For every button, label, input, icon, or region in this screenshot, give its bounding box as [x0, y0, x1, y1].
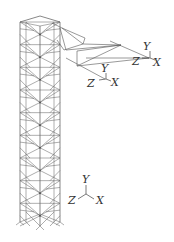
axis-triad-global: Y Z X [67, 173, 105, 207]
axis-triad-arm-tip: Y Z X [131, 40, 162, 69]
axis-label-x: X [152, 56, 162, 69]
axis-label-z: Z [131, 55, 140, 68]
axis-label-y: Y [101, 62, 110, 75]
lattice-tower [16, 16, 64, 230]
axis-label-x: X [95, 194, 105, 207]
axis-label-z: Z [86, 77, 95, 90]
axis-label-z: Z [67, 194, 76, 207]
axis-label-y: Y [143, 40, 152, 53]
structural-diagram: Y Z X Y Z X Y Z X [0, 0, 174, 242]
axis-label-x: X [110, 76, 120, 89]
axis-triad-arm-mid: Y Z X [86, 62, 120, 90]
axis-label-y: Y [82, 173, 91, 186]
